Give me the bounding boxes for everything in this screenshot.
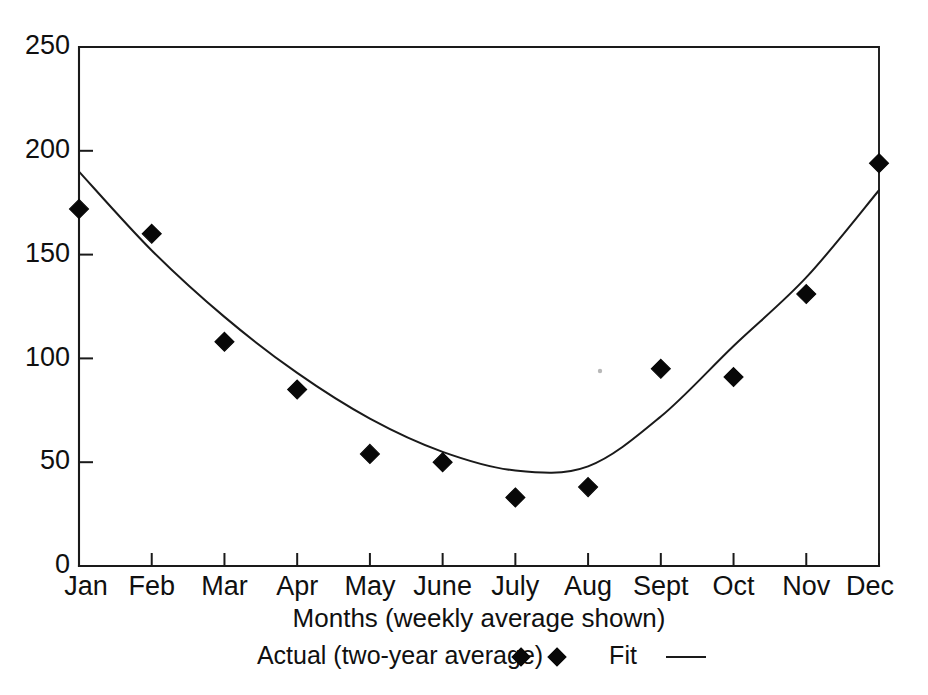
data-point-marker [870,154,889,173]
legend-label-actual: Actual (two-year average) [257,641,543,669]
data-point-marker [288,380,307,399]
x-tick-label: Dec [846,571,894,601]
fit-curve [79,172,879,473]
y-tick-label: 50 [40,445,70,475]
data-point-marker [433,453,452,472]
legend-diamond-icon [548,648,566,666]
x-axis-title: Months (weekly average shown) [293,603,666,633]
y-tick-label: 200 [25,134,70,164]
legend-label-fit: Fit [609,641,637,669]
actual-data-markers [70,154,889,507]
data-point-marker [215,332,234,351]
x-tick-label: Jan [64,571,108,601]
data-point-marker [70,199,89,218]
x-tick-label: Oct [713,571,756,601]
data-point-marker [724,368,743,387]
x-tick-label: Feb [128,571,175,601]
plot-frame [79,47,879,566]
y-axis-ticks [79,47,93,566]
y-tick-label: 100 [25,342,70,372]
x-tick-label: May [344,571,396,601]
x-tick-label: Mar [201,571,248,601]
data-point-marker [579,478,598,497]
data-point-marker [360,444,379,463]
scatter-plot-with-fit: 0 50 100 150 200 250 JanFebMarAprMayJune… [0,0,928,695]
x-tick-label: Apr [276,571,318,601]
x-tick-label: June [413,571,472,601]
chart-figure: 0 50 100 150 200 250 JanFebMarAprMayJune… [0,0,928,695]
y-axis-tick-labels: 0 50 100 150 200 250 [25,30,70,579]
scan-speck [598,369,602,373]
y-tick-label: 250 [25,30,70,60]
x-tick-label: Nov [782,571,831,601]
x-tick-label: Aug [564,571,612,601]
x-tick-label: Sept [633,571,689,601]
data-point-marker [142,224,161,243]
chart-legend: Actual (two-year average) Fit [257,641,706,669]
y-tick-label: 150 [25,238,70,268]
data-point-marker [506,488,525,507]
x-tick-label: July [491,571,540,601]
data-point-marker [651,359,670,378]
x-axis-ticks [79,553,879,566]
data-point-marker [797,285,816,304]
x-axis-tick-labels: JanFebMarAprMayJuneJulyAugSeptOctNovDec [64,571,894,601]
